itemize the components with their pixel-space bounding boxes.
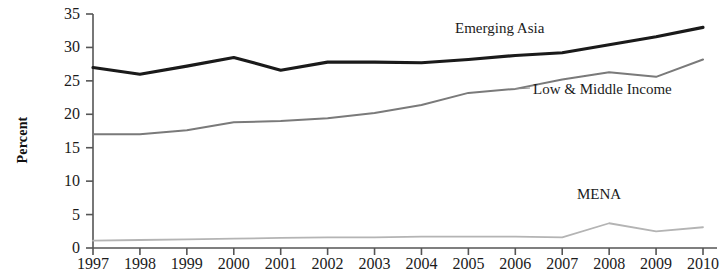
x-tick-label-2004: 2004 <box>395 256 447 272</box>
y-tick-label-0: 0 <box>46 240 80 256</box>
chart-container: Percent 05101520253035 19971998199920002… <box>0 0 721 279</box>
series-line-mena <box>93 223 703 240</box>
x-tick-label-1999: 1999 <box>161 256 213 272</box>
x-tick-label-2006: 2006 <box>489 256 541 272</box>
x-tick-label-2005: 2005 <box>442 256 494 272</box>
series-label-emerging-asia: Emerging Asia <box>455 21 544 36</box>
y-tick-label-5: 5 <box>46 207 80 223</box>
x-tick-label-2002: 2002 <box>302 256 354 272</box>
x-tick-label-2008: 2008 <box>583 256 635 272</box>
x-tick-label-1998: 1998 <box>114 256 166 272</box>
y-tick-label-30: 30 <box>46 39 80 55</box>
x-tick-label-2000: 2000 <box>208 256 260 272</box>
x-tick-label-2007: 2007 <box>536 256 588 272</box>
chart-plot-area <box>0 0 721 279</box>
x-tick-label-1997: 1997 <box>67 256 119 272</box>
y-tick-marks <box>86 14 93 248</box>
series-label-low-middle-income: Low & Middle Income <box>533 82 672 97</box>
y-tick-label-20: 20 <box>46 106 80 122</box>
x-tick-marks <box>93 248 703 255</box>
y-tick-label-35: 35 <box>46 6 80 22</box>
y-tick-label-10: 10 <box>46 173 80 189</box>
x-tick-label-2001: 2001 <box>255 256 307 272</box>
y-tick-label-15: 15 <box>46 140 80 156</box>
series-lines <box>93 27 703 240</box>
series-line-emerging-asia <box>93 27 703 74</box>
x-tick-label-2010: 2010 <box>677 256 721 272</box>
series-label-mena: MENA <box>577 187 621 202</box>
y-tick-label-25: 25 <box>46 73 80 89</box>
x-tick-label-2003: 2003 <box>349 256 401 272</box>
x-tick-label-2009: 2009 <box>630 256 682 272</box>
